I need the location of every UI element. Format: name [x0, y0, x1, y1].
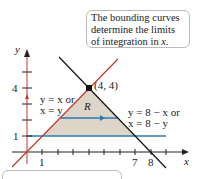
tick-label-x7: 7: [132, 156, 138, 168]
y-axis-arrow-icon: [24, 49, 30, 57]
callout-line-3: of integration in x.: [91, 36, 185, 48]
callout-box: The bounding curves determine the limits…: [86, 10, 190, 48]
region-label: R: [84, 100, 91, 112]
callout-line-2: determine the limits: [91, 24, 185, 36]
tick-label-x1: 1: [39, 156, 45, 168]
y-axis-label: y: [15, 43, 20, 55]
right-curve-label-2: x = 8 − y: [128, 117, 168, 129]
left-curve-label-2: x = y: [40, 104, 63, 116]
tick-label-x8: 8: [148, 156, 154, 168]
tick-label-y1: 1: [13, 130, 19, 142]
second-callout-box: [2, 170, 122, 179]
intersection-point: [86, 85, 92, 91]
tick-label-y4: 4: [12, 82, 18, 94]
y-axis-red-arrow-icon: [25, 94, 29, 99]
point-label: (4, 4): [94, 79, 118, 91]
callout-line-1: The bounding curves: [91, 12, 185, 24]
x-axis-label: x: [184, 155, 189, 167]
